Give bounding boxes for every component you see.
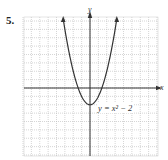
x-axis-label: x — [160, 83, 164, 92]
axes — [24, 11, 162, 156]
y-axis-label: y — [88, 5, 92, 14]
equation-label: y = x² − 2 — [97, 103, 133, 113]
parabola-chart — [0, 0, 168, 160]
